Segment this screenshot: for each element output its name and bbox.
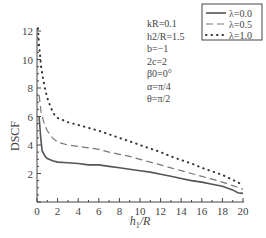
y-axis-label: DSCF bbox=[8, 121, 22, 151]
x-tick-label: 16 bbox=[196, 205, 208, 217]
y-tick-label: 12 bbox=[22, 25, 33, 37]
tick-labels: 0246810121416182024681012 bbox=[22, 25, 249, 217]
x-tick-label: 18 bbox=[217, 205, 229, 217]
parameter-annotation: α=π/4 bbox=[147, 81, 171, 92]
axes bbox=[37, 28, 244, 202]
parameter-annotations: kR=0.1h2/R=1.5b=−12c=2β0=0°α=π/4θ=π/2 bbox=[147, 18, 185, 104]
x-tick-label: 8 bbox=[117, 205, 123, 217]
series-line-dashed bbox=[39, 95, 243, 189]
x-tick-label: 20 bbox=[238, 205, 250, 217]
series-line-dotted bbox=[38, 28, 243, 185]
parameter-annotation: β0=0° bbox=[147, 68, 172, 79]
y-tick-label: 10 bbox=[22, 54, 34, 66]
x-tick-label: 2 bbox=[55, 205, 61, 217]
parameter-annotation: θ=π/2 bbox=[147, 93, 170, 104]
x-tick-label: 12 bbox=[155, 205, 166, 217]
y-tick-label: 4 bbox=[28, 139, 34, 151]
legend-label: λ=1.0 bbox=[229, 30, 252, 41]
parameter-annotation: 2c=2 bbox=[147, 56, 167, 67]
x-tick-label: 6 bbox=[96, 205, 102, 217]
x-tick-label: 14 bbox=[176, 205, 188, 217]
x-tick-label: 4 bbox=[75, 205, 81, 217]
legend-label: λ=0.0 bbox=[229, 8, 252, 19]
dscf-chart: 0246810121416182024681012 λ=0.0λ=0.5λ=1.… bbox=[0, 0, 266, 238]
y-tick-label: 6 bbox=[28, 111, 34, 123]
data-series bbox=[38, 28, 243, 193]
y-tick-label: 2 bbox=[28, 168, 34, 180]
x-tick-label: 0 bbox=[34, 205, 40, 217]
parameter-annotation: b=−1 bbox=[147, 43, 168, 54]
parameter-annotation: kR=0.1 bbox=[147, 18, 177, 29]
series-line-solid bbox=[39, 117, 243, 194]
y-tick-label: 8 bbox=[28, 82, 34, 94]
parameter-annotation: h2/R=1.5 bbox=[147, 31, 185, 42]
x-axis-label: h1/R bbox=[130, 214, 151, 230]
legend-label: λ=0.5 bbox=[229, 19, 252, 30]
legend: λ=0.0λ=0.5λ=1.0 bbox=[202, 4, 262, 41]
